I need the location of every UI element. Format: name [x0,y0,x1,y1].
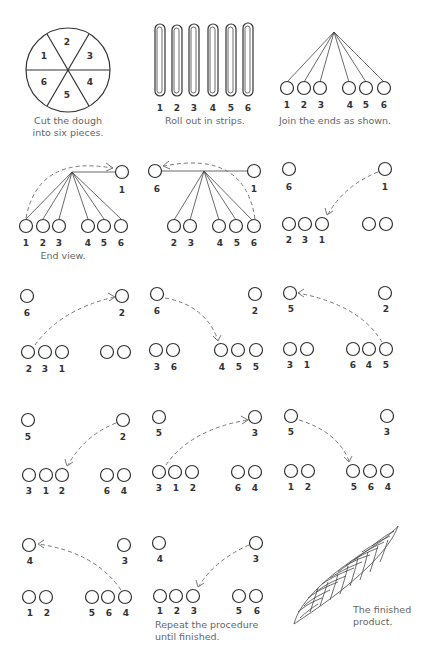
svg-text:5: 5 [228,103,234,113]
svg-text:3: 3 [191,606,197,616]
svg-text:1: 1 [288,482,294,492]
svg-text:2: 2 [252,306,258,316]
svg-text:1: 1 [27,608,33,618]
svg-text:3: 3 [253,554,259,564]
svg-text:2: 2 [190,483,196,493]
svg-text:4: 4 [217,238,223,248]
svg-text:6: 6 [381,100,387,110]
caption: Roll out in strips. [165,115,245,126]
step-14: 4 3 1 2 3 5 6 Repeat the procedure until… [153,537,263,643]
step-6: 6 1 2 3 1 [283,163,393,246]
svg-text:6: 6 [286,182,292,192]
svg-text:2: 2 [286,235,292,245]
svg-text:1: 1 [319,235,325,245]
svg-text:5: 5 [236,606,242,616]
step-15-finished-braid: The finished product. [294,526,411,627]
svg-text:4: 4 [27,556,33,566]
svg-text:2: 2 [171,238,177,248]
svg-text:6: 6 [245,103,251,113]
svg-text:4: 4 [347,100,353,110]
step-11: 5 3 3 1 2 6 4 [153,411,262,494]
svg-text:3: 3 [318,100,324,110]
svg-text:2: 2 [40,238,46,248]
svg-text:2: 2 [44,608,50,618]
svg-text:4: 4 [210,103,216,113]
svg-text:3: 3 [287,360,293,370]
svg-text:4: 4 [385,482,391,492]
svg-text:2: 2 [59,486,65,496]
caption: Cut the dough [34,115,102,126]
svg-text:1: 1 [251,184,257,194]
svg-text:4: 4 [123,608,129,618]
svg-text:5: 5 [236,362,242,372]
braiding-diagram: 1 2 3 4 5 6 Cut the dough into six piece… [0,0,422,660]
svg-text:1: 1 [157,103,163,113]
svg-text:1: 1 [23,238,29,248]
svg-text:1: 1 [173,483,179,493]
svg-text:1: 1 [59,364,65,374]
svg-text:3: 3 [156,483,162,493]
svg-text:4: 4 [87,77,93,87]
svg-text:2: 2 [26,364,32,374]
svg-text:3: 3 [252,428,258,438]
svg-text:2: 2 [120,432,126,442]
caption: until finished. [155,631,220,642]
svg-text:2: 2 [174,606,180,616]
svg-text:5: 5 [351,482,357,492]
step-2-strips: 1 2 3 4 5 6 Roll out in strips. [155,23,253,126]
svg-text:6: 6 [154,184,160,194]
step-12: 5 3 1 2 5 6 4 [285,410,394,493]
step-9: 5 2 3 1 6 4 5 [284,287,393,371]
svg-text:6: 6 [154,306,160,316]
svg-text:6: 6 [350,360,356,370]
svg-text:4: 4 [85,238,91,248]
svg-text:1: 1 [382,182,388,192]
svg-text:6: 6 [171,362,177,372]
svg-text:5: 5 [288,427,294,437]
svg-text:5: 5 [25,432,31,442]
svg-text:3: 3 [188,238,194,248]
svg-text:6: 6 [106,608,112,618]
svg-text:6: 6 [118,238,124,248]
svg-text:1: 1 [157,606,163,616]
svg-text:4: 4 [121,486,127,496]
svg-text:3: 3 [191,103,197,113]
svg-text:4: 4 [157,554,163,564]
svg-text:4: 4 [366,360,372,370]
caption: End view. [40,250,85,261]
svg-text:1: 1 [284,100,290,110]
svg-text:6: 6 [254,606,260,616]
svg-text:5: 5 [101,238,107,248]
caption: Join the ends as shown. [278,115,391,126]
svg-text:5: 5 [383,360,389,370]
svg-text:3: 3 [384,427,390,437]
svg-text:4: 4 [252,483,258,493]
svg-text:5: 5 [363,100,369,110]
svg-text:5: 5 [234,238,240,248]
svg-text:1: 1 [43,486,49,496]
svg-text:1: 1 [119,185,125,195]
step-10: 5 2 3 1 2 6 4 [22,414,131,497]
svg-text:6: 6 [41,77,47,87]
step-4-end-view: 1 1 2 3 4 5 6 End view. [20,163,129,261]
svg-text:3: 3 [56,238,62,248]
step-13: 4 3 1 2 5 6 4 [23,539,132,619]
caption: The finished [352,604,411,615]
svg-text:1: 1 [41,51,47,61]
svg-text:6: 6 [251,238,257,248]
step-1-dough-circle: 1 2 3 4 5 6 Cut the dough into six piece… [26,28,110,138]
svg-text:2: 2 [383,304,389,314]
step-5: 6 1 2 3 4 5 6 [149,161,261,248]
svg-text:3: 3 [302,235,308,245]
svg-text:2: 2 [119,308,125,318]
svg-text:3: 3 [42,364,48,374]
svg-text:2: 2 [305,482,311,492]
svg-text:3: 3 [154,362,160,372]
svg-text:5: 5 [253,362,259,372]
step-7: 6 2 2 3 1 [21,290,131,375]
caption: Repeat the procedure [155,619,258,630]
svg-text:5: 5 [288,304,294,314]
svg-text:4: 4 [219,362,225,372]
caption: into six pieces. [33,127,104,138]
svg-text:3: 3 [26,486,32,496]
